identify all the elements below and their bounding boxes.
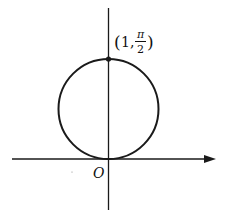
label-theta-denominator: 2 bbox=[137, 43, 144, 56]
origin-label: O bbox=[93, 165, 105, 181]
label-close-paren: ) bbox=[147, 32, 154, 52]
axis-arrowhead-icon bbox=[204, 155, 216, 163]
point-marker bbox=[106, 56, 111, 61]
polar-diagram: ( 1, π 2 ) O bbox=[0, 0, 231, 223]
label-theta-numerator: π bbox=[136, 28, 145, 41]
label-open-paren: ( bbox=[114, 32, 121, 52]
label-r-value: 1, bbox=[121, 34, 134, 50]
speck bbox=[71, 171, 72, 172]
point-label: ( 1, π 2 ) bbox=[114, 28, 154, 56]
